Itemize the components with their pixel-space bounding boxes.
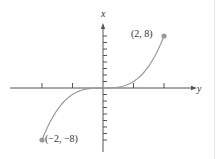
page-edge-divider xyxy=(214,0,215,159)
endpoint-marker-bottom xyxy=(39,137,44,142)
endpoint-marker-top xyxy=(161,33,166,38)
cubic-function-plot xyxy=(0,0,217,159)
annotation-bottom-point: (−2, −8) xyxy=(45,134,78,144)
annotation-top-point: (2, 8) xyxy=(131,29,153,39)
horizontal-axis-label: y xyxy=(197,84,201,94)
vertical-axis-label: x xyxy=(101,9,105,19)
